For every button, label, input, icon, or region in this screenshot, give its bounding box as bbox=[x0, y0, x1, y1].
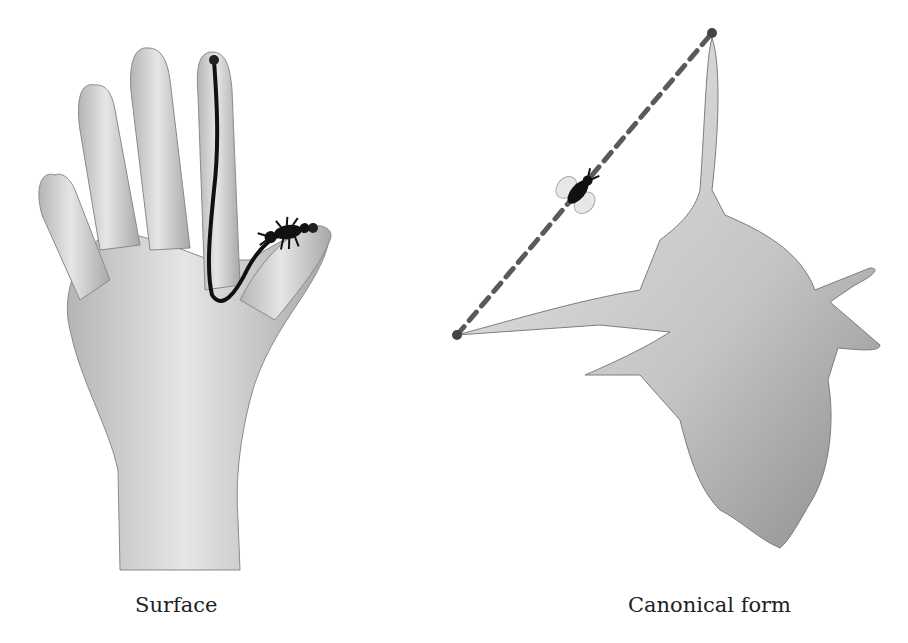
start-point bbox=[452, 330, 462, 340]
start-point bbox=[209, 55, 219, 65]
figure-graphics bbox=[0, 0, 908, 643]
canonical-form-shape bbox=[452, 28, 880, 548]
caption-canonical-form: Canonical form bbox=[628, 593, 791, 617]
end-point bbox=[707, 28, 717, 38]
caption-surface: Surface bbox=[135, 593, 217, 617]
hand-surface bbox=[39, 48, 331, 570]
